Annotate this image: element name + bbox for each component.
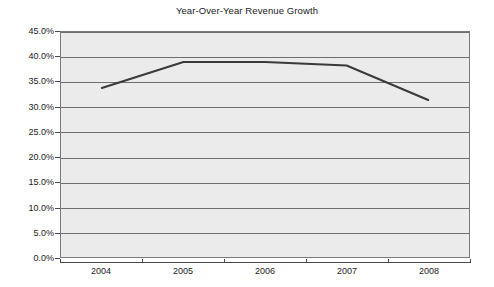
y-tick-mark <box>55 233 60 234</box>
y-tick-label: 30.0% <box>0 102 54 112</box>
y-tick-label: 25.0% <box>0 127 54 137</box>
x-tick-mark <box>470 259 471 263</box>
y-tick-mark <box>55 31 60 32</box>
x-tick-label: 2005 <box>173 266 193 276</box>
x-axis-line <box>60 262 471 263</box>
x-tick-label: 2007 <box>337 266 357 276</box>
y-tick-mark <box>55 107 60 108</box>
chart-figure: Year-Over-Year Revenue Growth 0.0%5.0%10… <box>0 0 494 287</box>
y-tick-label: 10.0% <box>0 203 54 213</box>
x-tick-mark <box>388 259 389 263</box>
y-tick-mark <box>55 208 60 209</box>
y-tick-mark <box>55 157 60 158</box>
y-tick-mark <box>55 132 60 133</box>
y-tick-label: 35.0% <box>0 76 54 86</box>
x-tick-label: 2008 <box>419 266 439 276</box>
y-tick-mark <box>55 81 60 82</box>
y-tick-label: 0.0% <box>0 253 54 263</box>
x-tick-mark <box>60 259 61 263</box>
y-tick-label: 20.0% <box>0 152 54 162</box>
x-tick-mark <box>224 259 225 263</box>
y-tick-mark <box>55 182 60 183</box>
x-tick-mark <box>142 259 143 263</box>
x-tick-mark <box>306 259 307 263</box>
x-tick-label: 2006 <box>255 266 275 276</box>
y-tick-label: 15.0% <box>0 177 54 187</box>
chart-title: Year-Over-Year Revenue Growth <box>0 5 494 16</box>
y-tick-label: 45.0% <box>0 26 54 36</box>
y-tick-mark <box>55 56 60 57</box>
y-axis: 0.0%5.0%10.0%15.0%20.0%25.0%30.0%35.0%40… <box>0 0 54 287</box>
series-polyline <box>102 62 428 100</box>
x-tick-label: 2004 <box>91 266 111 276</box>
plot-area <box>60 31 470 258</box>
y-tick-label: 5.0% <box>0 228 54 238</box>
series-line-revenue-growth <box>61 32 469 257</box>
y-tick-label: 40.0% <box>0 51 54 61</box>
